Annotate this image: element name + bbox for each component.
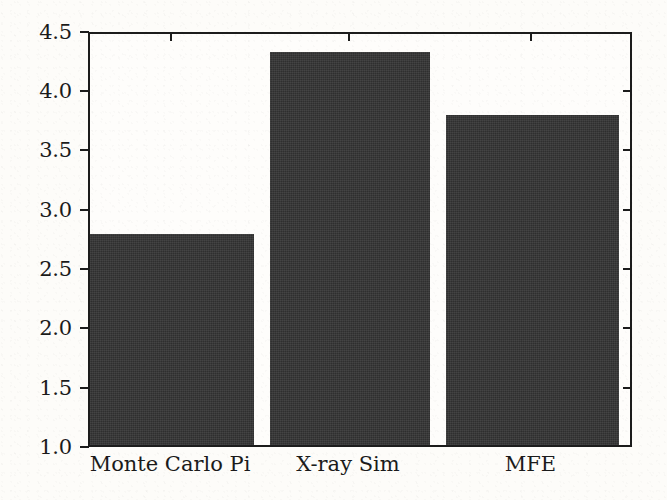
y-tick-label-3.5: 3.5 [39,138,72,162]
x-tick-label-x-ray-sim: X-ray Sim [268,452,428,476]
x-tick-mark-top-monte-carlo-pi [170,32,172,41]
y-tick-mark-4.0 [80,90,89,92]
plot-area [88,32,632,447]
y-tick-label-4.5: 4.5 [39,20,72,44]
y-tick-mark-1.5 [80,387,89,389]
bar-monte-carlo-pi[interactable] [90,234,254,445]
y-tick-mark-right-2.5 [623,268,632,270]
x-tick-label-monte-carlo-pi: Monte Carlo Pi [88,452,252,476]
x-tick-label-mfe: MFE [444,452,617,476]
y-tick-mark-2.5 [80,268,89,270]
y-tick-mark-4.5 [80,31,89,33]
y-tick-label-2.5: 2.5 [39,257,72,281]
y-tick-label-2.0: 2.0 [39,316,72,340]
y-tick-mark-3.5 [80,149,89,151]
y-tick-mark-3.0 [80,209,89,211]
y-tick-mark-right-3.0 [623,209,632,211]
y-tick-mark-right-1.5 [623,387,632,389]
y-tick-label-1.0: 1.0 [39,435,72,459]
y-tick-mark-1.0 [80,446,89,448]
bar-mfe[interactable] [446,115,619,445]
y-tick-mark-right-2.0 [623,327,632,329]
y-tick-label-3.0: 3.0 [39,198,72,222]
x-tick-mark-top-mfe [530,32,532,41]
y-tick-mark-2.0 [80,327,89,329]
y-tick-mark-right-3.5 [623,149,632,151]
bars-layer [90,34,630,445]
y-tick-label-1.5: 1.5 [39,376,72,400]
x-tick-mark-top-x-ray-sim [348,32,350,41]
y-tick-label-4.0: 4.0 [39,79,72,103]
speedup-bar-chart-figure: Speedup 4.5 4.0 3.5 3.0 2.5 2.0 1.5 1.0 … [0,0,667,500]
bar-x-ray-sim[interactable] [270,52,430,445]
y-tick-mark-right-4.0 [623,90,632,92]
